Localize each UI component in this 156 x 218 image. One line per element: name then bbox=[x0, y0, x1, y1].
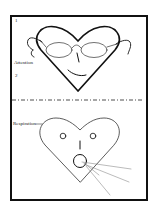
smile-icon bbox=[68, 70, 86, 76]
heart-outline-icon bbox=[40, 118, 120, 182]
nose-line bbox=[77, 53, 79, 62]
glasses-bridge bbox=[72, 45, 81, 48]
glasses-right-lens-icon bbox=[81, 43, 107, 58]
right-eye-icon bbox=[90, 133, 96, 139]
glasses-temple-right bbox=[107, 44, 117, 47]
diagram-drawing bbox=[0, 0, 156, 218]
right-ear-icon bbox=[116, 40, 131, 54]
mouth-open-icon bbox=[74, 155, 87, 168]
glasses-left-lens-icon bbox=[46, 43, 72, 58]
attention-heart-face bbox=[27, 27, 130, 91]
breath-lines-icon bbox=[82, 162, 131, 195]
glasses-temple-left bbox=[40, 40, 46, 47]
left-eye-icon bbox=[60, 133, 66, 139]
respiration-heart-face bbox=[36, 118, 131, 195]
